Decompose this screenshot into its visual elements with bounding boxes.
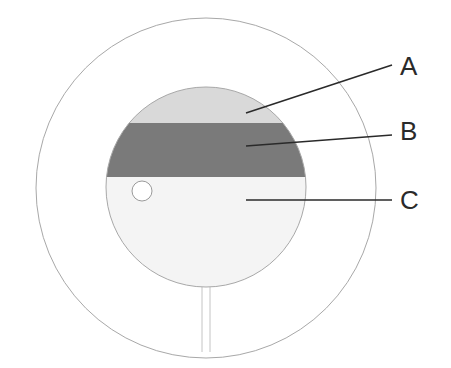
- layer-b: [100, 123, 320, 177]
- label-a: A: [400, 51, 418, 81]
- label-c: C: [400, 185, 419, 215]
- label-b: B: [400, 116, 417, 146]
- layered-circle-diagram: A B C: [0, 0, 451, 368]
- bubble-circle: [132, 181, 152, 201]
